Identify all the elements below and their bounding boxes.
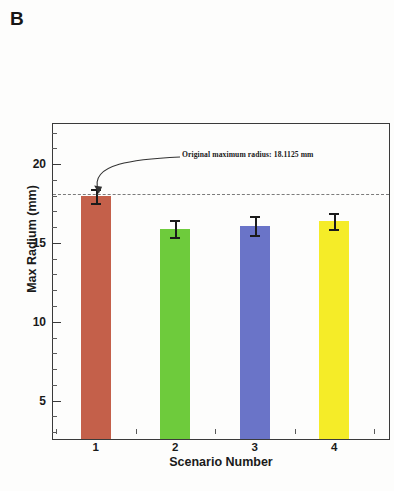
panel-label: B	[10, 8, 24, 30]
reference-line-annotation: Original maximum radius: 18.1125 mm	[182, 150, 314, 159]
x-tick-label: 2	[163, 441, 187, 453]
y-tick-label: 10	[16, 315, 46, 329]
error-bar-cap	[250, 235, 260, 237]
y-tick-label: 5	[16, 394, 46, 408]
error-bar-scenario-2	[175, 220, 177, 237]
error-bar-cap	[329, 213, 339, 215]
bars-container	[53, 124, 388, 438]
bar-scenario-2	[160, 229, 190, 439]
x-tick-label: 3	[243, 441, 267, 453]
error-bar-cap	[170, 220, 180, 222]
error-bar-cap	[91, 189, 101, 191]
y-tick-label: 15	[16, 236, 46, 250]
error-bar-cap	[170, 237, 180, 239]
error-bar-scenario-4	[334, 213, 336, 229]
x-tick-label: 4	[322, 441, 346, 453]
figure-panel-b: B Max Radium (mm) Scenario Number 510152…	[0, 0, 394, 491]
bar-scenario-1	[81, 196, 111, 440]
bar-scenario-3	[240, 226, 270, 440]
reference-line-dashed	[53, 194, 389, 195]
error-bar-cap	[329, 229, 339, 231]
error-bar-scenario-1	[96, 189, 98, 203]
error-bar-cap	[250, 216, 260, 218]
error-bar-scenario-3	[255, 216, 257, 235]
bar-scenario-4	[319, 221, 349, 439]
error-bar-cap	[91, 203, 101, 205]
x-axis-label: Scenario Number	[52, 455, 390, 469]
x-tick-label: 1	[84, 441, 108, 453]
y-tick-label: 20	[16, 157, 46, 171]
